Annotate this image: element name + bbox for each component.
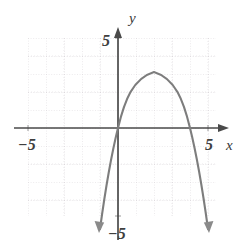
y-axis-max-tick-label: 5 <box>102 32 110 49</box>
x-axis-max-tick-label: 5 <box>205 136 213 153</box>
y-axis-min-tick-label: −5 <box>108 225 126 242</box>
graph-canvas: y x 5 5 −5 −5 <box>0 0 240 244</box>
coordinate-graph-figure: y x 5 5 −5 −5 <box>0 0 240 244</box>
grid-lines <box>28 38 216 216</box>
y-axis-label: y <box>127 10 136 26</box>
x-axis-min-tick-label: −5 <box>18 136 36 153</box>
x-axis-label: x <box>225 137 233 153</box>
